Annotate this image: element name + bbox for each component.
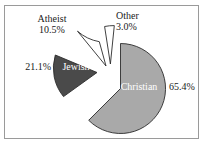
pie-label-atheist: Atheist 10.5% xyxy=(28,14,76,36)
pie-label-atheist-percent: 10.5% xyxy=(28,25,76,36)
pie-slice-other[interactable] xyxy=(105,26,115,64)
pie-label-other-percent: 3.0% xyxy=(116,22,162,33)
pie-label-other: Other 3.0% xyxy=(116,11,162,33)
pie-chart-figure: Atheist 10.5% Other 3.0% 21.1% Jewish Ch… xyxy=(0,0,211,153)
pie-label-jewish-percent: 21.1% xyxy=(11,62,51,73)
pie-label-christian-name: Christian xyxy=(113,82,165,93)
pie-label-christian-percent: 65.4% xyxy=(169,82,207,93)
pie-label-jewish-name: Jewish xyxy=(54,62,98,73)
